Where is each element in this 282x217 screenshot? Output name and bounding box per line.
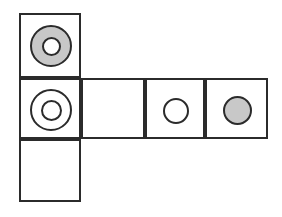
- shape-grid-figure: [0, 0, 282, 217]
- white-annulus-icon: [30, 89, 72, 131]
- middle-row-cell-3[interactable]: [145, 78, 205, 139]
- white-circle-icon: [163, 98, 189, 124]
- middle-row-cell-2[interactable]: [81, 78, 145, 139]
- white-annulus-hole: [41, 100, 62, 121]
- bottom-left-cell[interactable]: [19, 139, 81, 202]
- gray-annulus-hole: [42, 37, 61, 56]
- gray-annulus-icon: [30, 25, 72, 67]
- gray-circle-icon: [223, 96, 252, 125]
- top-left-cell[interactable]: [19, 13, 81, 78]
- middle-left-cell[interactable]: [19, 78, 81, 139]
- middle-row-cell-4[interactable]: [205, 78, 268, 139]
